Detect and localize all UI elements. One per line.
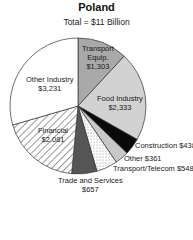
label-transport-telecom: Transport/Telecom $548 <box>113 164 193 173</box>
label-transport-equip: TransportEquip.$1,303 <box>82 44 114 71</box>
label-other: Other $361 <box>124 154 162 163</box>
label-food-industry: Food Industry$2,333 <box>97 94 143 112</box>
label-financial: Financial$2,081 <box>38 126 68 144</box>
label-trade-services: Trade and Services$657 <box>58 176 123 194</box>
label-construction: Construction $438 <box>135 141 193 150</box>
label-other-industry: Other Industry$3,231 <box>26 75 74 93</box>
